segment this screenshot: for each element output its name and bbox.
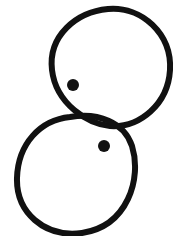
upper-dot — [67, 79, 79, 91]
upper-circle — [52, 9, 170, 126]
lower-dot — [98, 140, 110, 152]
drawing-canvas — [0, 0, 180, 236]
lower-circle — [17, 116, 135, 234]
